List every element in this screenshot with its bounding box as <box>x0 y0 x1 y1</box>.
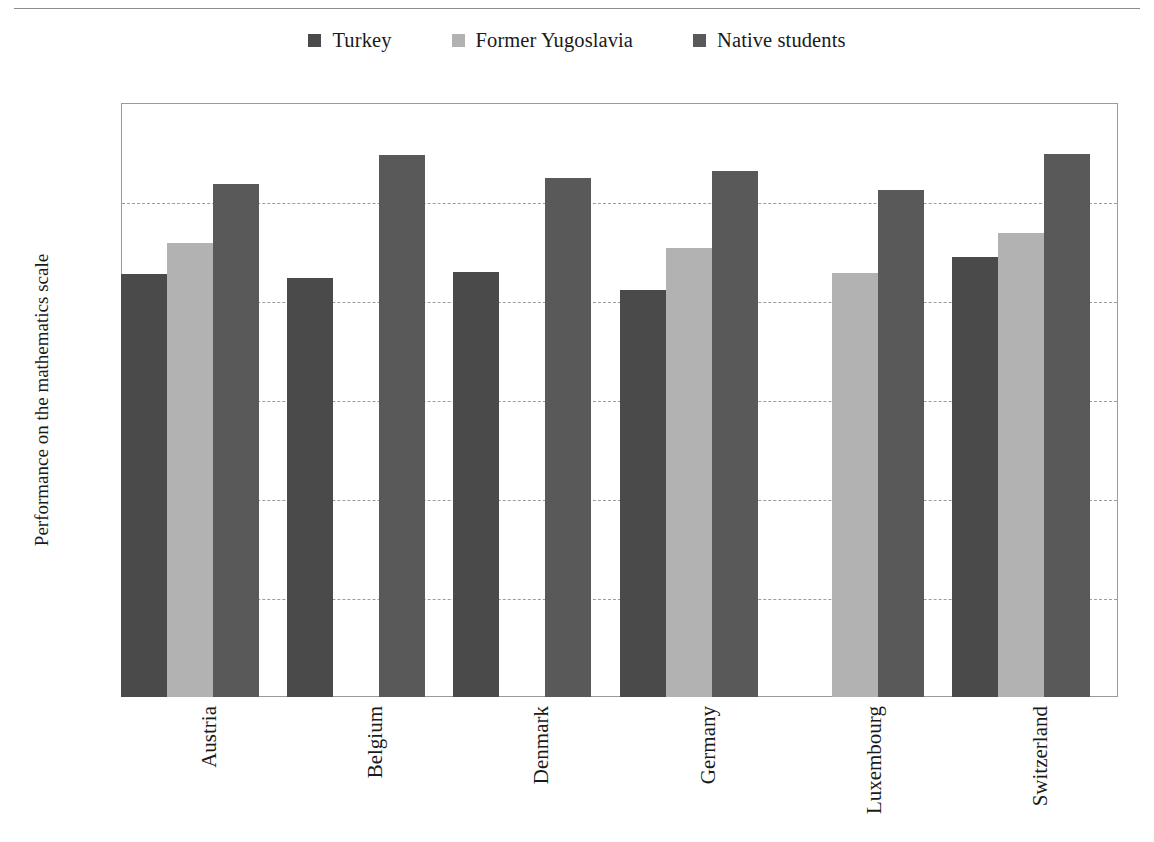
gridline <box>122 203 1117 204</box>
x-axis-tick-label: Denmark <box>531 706 552 784</box>
gridline <box>122 599 1117 600</box>
x-axis-tick-label: Austria <box>199 706 220 768</box>
bar-chart: Performance on the mathematics scale 600… <box>0 0 1154 842</box>
x-axis-tick-label: Germany <box>698 706 719 784</box>
plot-area <box>121 103 1118 697</box>
gridline <box>122 500 1117 501</box>
x-axis-tick-label: Switzerland <box>1030 706 1051 806</box>
y-axis-title: Performance on the mathematics scale <box>28 103 56 697</box>
gridline <box>122 401 1117 402</box>
gridline <box>122 302 1117 303</box>
x-axis-tick-label: Belgium <box>365 706 386 778</box>
x-axis-tick-label: Luxembourg <box>864 706 885 814</box>
